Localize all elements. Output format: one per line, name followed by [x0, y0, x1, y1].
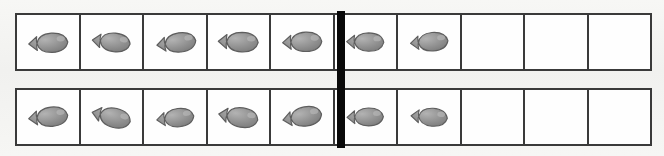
cell-bottom-3[interactable]	[144, 90, 208, 144]
fish-cracker-icon	[24, 27, 72, 59]
cell-bottom-7[interactable]	[398, 90, 462, 144]
worksheet-page	[0, 0, 664, 156]
cell-bottom-5[interactable]	[271, 90, 335, 144]
fish-cracker-icon	[278, 26, 325, 58]
cell-bottom-10[interactable]	[589, 90, 651, 144]
fish-cracker-icon	[213, 98, 264, 135]
ten-frame-bottom-row	[15, 88, 652, 146]
cell-top-8[interactable]	[462, 15, 526, 69]
cell-top-10[interactable]	[589, 15, 651, 69]
ten-frame-top-row	[15, 13, 652, 71]
cell-bottom-9[interactable]	[525, 90, 589, 144]
fish-cracker-icon	[24, 100, 72, 134]
cell-top-9[interactable]	[525, 15, 589, 69]
cell-top-3[interactable]	[144, 15, 208, 69]
fish-cracker-icon	[214, 26, 262, 58]
fish-cracker-icon	[85, 97, 137, 137]
fish-cracker-icon	[343, 27, 387, 56]
cell-bottom-4[interactable]	[208, 90, 272, 144]
cell-top-5[interactable]	[271, 15, 335, 69]
fish-cracker-icon	[406, 102, 451, 133]
cell-bottom-1[interactable]	[17, 90, 81, 144]
cell-bottom-8[interactable]	[462, 90, 526, 144]
cell-top-7[interactable]	[398, 15, 462, 69]
fish-cracker-icon	[151, 25, 200, 60]
ten-frames-container	[15, 13, 652, 146]
cell-top-2[interactable]	[81, 15, 145, 69]
cell-bottom-2[interactable]	[81, 90, 145, 144]
fish-cracker-icon	[152, 102, 198, 135]
cell-top-1[interactable]	[17, 15, 81, 69]
fish-cracker-icon	[277, 99, 327, 136]
cell-top-4[interactable]	[208, 15, 272, 69]
group-of-five-divider	[337, 11, 345, 148]
fish-cracker-icon	[406, 26, 452, 58]
fish-cracker-icon	[88, 25, 135, 59]
fish-cracker-icon	[344, 103, 387, 132]
